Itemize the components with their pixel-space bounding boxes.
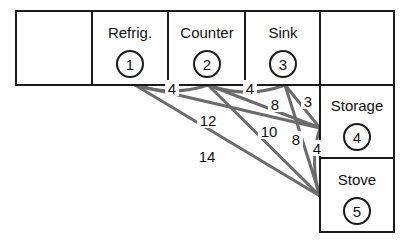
edge-weight-counter-stove: 10 bbox=[261, 123, 278, 140]
cell-label-sink: Sink bbox=[268, 24, 298, 41]
edge-weight-counter-storage: 8 bbox=[271, 96, 279, 113]
node-number-3: 3 bbox=[279, 56, 287, 73]
edge-weight-refrigerator-storage: 12 bbox=[200, 112, 217, 129]
cell-label-refrigerator: Refrig. bbox=[108, 24, 152, 41]
edge-weight-storage-stove: 4 bbox=[313, 140, 321, 157]
cell-label-stove: Stove bbox=[338, 171, 376, 188]
edge-weight-refrigerator-counter: 4 bbox=[168, 80, 176, 97]
edge-weight-refrigerator-stove: 14 bbox=[199, 148, 216, 165]
cell-label-counter: Counter bbox=[180, 24, 233, 41]
edge-weight-sink-storage: 3 bbox=[304, 93, 312, 110]
node-number-5: 5 bbox=[353, 203, 361, 220]
edge-weight-counter-sink: 4 bbox=[246, 80, 254, 97]
node-number-2: 2 bbox=[203, 56, 211, 73]
edge-weight-sink-stove: 8 bbox=[292, 131, 300, 148]
cell-empty-left bbox=[16, 11, 92, 85]
kitchen-layout-diagram: Refrig. 1 Counter 2 Sink 3 Storage 4 Sto… bbox=[0, 0, 409, 240]
cell-label-storage: Storage bbox=[331, 97, 384, 114]
cell-empty-right bbox=[320, 11, 394, 85]
node-number-1: 1 bbox=[126, 56, 134, 73]
node-number-4: 4 bbox=[353, 129, 361, 146]
diagram-canvas: Refrig. 1 Counter 2 Sink 3 Storage 4 Sto… bbox=[0, 0, 409, 240]
